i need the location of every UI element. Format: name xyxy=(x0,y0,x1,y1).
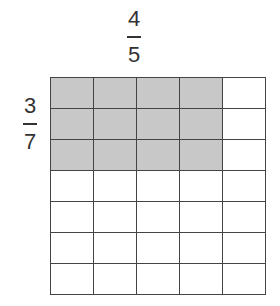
row-fraction-denominator: 7 xyxy=(18,131,42,153)
grid-cell-shaded xyxy=(94,140,137,171)
grid-cell xyxy=(223,202,266,233)
area-model-grid xyxy=(50,77,266,295)
column-fraction: 4 5 xyxy=(122,8,146,66)
grid-cell xyxy=(180,202,223,233)
fraction-bar xyxy=(23,123,37,125)
grid-cell xyxy=(223,264,266,295)
fraction-bar xyxy=(127,36,141,38)
grid-cell xyxy=(51,202,94,233)
grid-cell xyxy=(223,140,266,171)
grid-cell-shaded xyxy=(94,78,137,109)
grid-cell xyxy=(180,233,223,264)
grid-cell-shaded xyxy=(180,78,223,109)
grid-cell-shaded xyxy=(51,78,94,109)
grid-cell xyxy=(223,109,266,140)
grid-cell-shaded xyxy=(137,109,180,140)
grid-cell xyxy=(137,171,180,202)
grid-cell xyxy=(51,171,94,202)
row-fraction-numerator: 3 xyxy=(18,95,42,117)
grid-cell xyxy=(180,264,223,295)
grid-cell xyxy=(137,233,180,264)
grid-cell xyxy=(94,264,137,295)
grid-cell xyxy=(137,264,180,295)
grid-cell xyxy=(51,233,94,264)
grid-cell xyxy=(94,202,137,233)
grid-cell xyxy=(223,78,266,109)
grid-cell-shaded xyxy=(180,109,223,140)
grid-cell xyxy=(180,171,223,202)
column-fraction-numerator: 4 xyxy=(122,8,146,30)
grid-cell xyxy=(94,233,137,264)
grid-cell xyxy=(51,264,94,295)
grid-cell xyxy=(223,171,266,202)
grid-cell xyxy=(223,233,266,264)
grid-cell-shaded xyxy=(94,109,137,140)
column-fraction-denominator: 5 xyxy=(122,44,146,66)
grid-cell-shaded xyxy=(51,140,94,171)
grid-cell-shaded xyxy=(51,109,94,140)
row-fraction: 3 7 xyxy=(18,95,42,153)
grid-cell xyxy=(94,171,137,202)
grid-cell xyxy=(137,202,180,233)
grid-cell-shaded xyxy=(180,140,223,171)
grid-cell-shaded xyxy=(137,140,180,171)
grid-cell-shaded xyxy=(137,78,180,109)
